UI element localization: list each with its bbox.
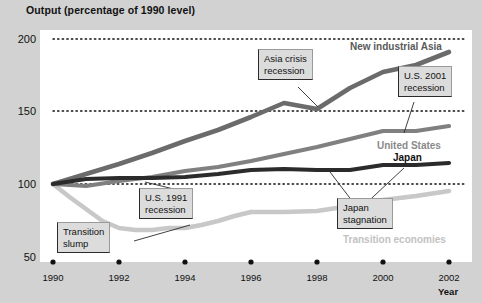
x-tick-dot-2000 bbox=[380, 259, 385, 264]
callout-us-2001-recession: U.S. 2001 recession bbox=[398, 66, 452, 97]
leader-us-2001 bbox=[404, 102, 414, 133]
x-tick-1990: 1990 bbox=[42, 272, 63, 283]
series-label-united-states: United States bbox=[377, 140, 441, 151]
callout-japan-line1: Japan bbox=[343, 202, 387, 214]
x-tick-2000: 2000 bbox=[372, 272, 393, 283]
callout-asia-crisis-recession: Asia crisis recession bbox=[258, 49, 313, 80]
callout-us-1991-line2: recession bbox=[145, 204, 187, 216]
x-tick-dot-1990 bbox=[50, 259, 55, 264]
callout-transition-slump: Transition slump bbox=[57, 222, 110, 253]
x-tick-2002: 2002 bbox=[438, 272, 459, 283]
x-axis-title: Year bbox=[438, 286, 458, 297]
x-tick-1992: 1992 bbox=[108, 272, 129, 283]
callout-us-2001-line2: recession bbox=[404, 82, 446, 94]
x-tick-marks bbox=[50, 259, 451, 264]
x-tick-dot-1998 bbox=[314, 259, 319, 264]
x-tick-1996: 1996 bbox=[240, 272, 261, 283]
callout-transition-line2: slump bbox=[63, 238, 104, 250]
callout-asia-crisis-line2: recession bbox=[264, 65, 307, 77]
series-label-transition-economies: Transition economies bbox=[343, 234, 446, 245]
callout-us-1991-recession: U.S. 1991 recession bbox=[139, 188, 193, 219]
x-tick-dot-1994 bbox=[182, 259, 187, 264]
series-label-new-industrial-asia: New industrial Asia bbox=[350, 41, 442, 52]
callout-japan-line2: stagnation bbox=[343, 214, 387, 226]
callout-japan-stagnation: Japan stagnation bbox=[337, 198, 393, 229]
x-tick-1998: 1998 bbox=[306, 272, 327, 283]
x-tick-dot-1996 bbox=[248, 259, 253, 264]
x-tick-dot-1992 bbox=[116, 259, 121, 264]
chart-figure: Output (percentage of 1990 level) 200 15… bbox=[0, 0, 482, 303]
callout-us-1991-line1: U.S. 1991 bbox=[145, 192, 187, 204]
x-tick-dot-2002 bbox=[446, 259, 451, 264]
series-label-japan: Japan bbox=[393, 152, 422, 163]
x-tick-1994: 1994 bbox=[174, 272, 195, 283]
callout-asia-crisis-line1: Asia crisis bbox=[264, 53, 307, 65]
callout-us-2001-line1: U.S. 2001 bbox=[404, 70, 446, 82]
callout-transition-line1: Transition bbox=[63, 226, 104, 238]
